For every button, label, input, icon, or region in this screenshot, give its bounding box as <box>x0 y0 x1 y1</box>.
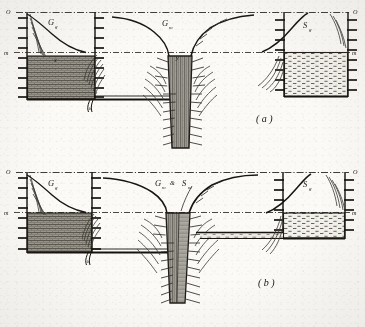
panel-a: O O m m G g G m S g x y b ( a ) <box>4 8 358 148</box>
panel-b-right-well <box>196 172 354 254</box>
panel-b-datum-right-label: O <box>353 168 358 175</box>
panel-a-datum-left-label: O <box>6 8 11 15</box>
panel-a-center-region-label: G m <box>162 18 173 30</box>
svg-text:G: G <box>48 17 54 27</box>
panel-b-center-inflow-left <box>137 219 162 273</box>
svg-text:m: m <box>188 185 192 190</box>
svg-text:G: G <box>48 178 54 188</box>
panel-a-watertable-right-label: m <box>352 49 357 56</box>
panel-a-center-inflow-left <box>143 66 166 116</box>
panel-b-right-region-label: S g <box>303 179 312 191</box>
svg-text:g: g <box>309 27 312 32</box>
svg-text:S: S <box>303 179 308 189</box>
panel-b-center-inflow-right <box>194 219 219 273</box>
svg-text:&: & <box>170 179 175 186</box>
panel-a-left-region-label: G g <box>48 17 58 29</box>
panel-a-point-x-label: x <box>53 56 57 63</box>
panel-a-left-well <box>18 12 178 112</box>
panel-a-point-y-label: y <box>175 54 179 61</box>
svg-text:m: m <box>169 25 173 30</box>
panel-b-watertable-left-label: m <box>4 209 9 216</box>
svg-text:G: G <box>162 18 168 28</box>
panel-b: O O m m G g G m & S m S g b ( b ) <box>4 168 358 303</box>
panel-a-watertable-left-label: m <box>4 49 9 56</box>
panel-a-caption: ( a ) <box>256 113 273 125</box>
panel-b-watertable-right-label: m <box>352 209 357 216</box>
panel-a-center-well <box>112 15 254 148</box>
svg-text:G: G <box>155 178 161 188</box>
panel-b-caption: ( b ) <box>258 277 275 289</box>
svg-text:S: S <box>182 178 187 188</box>
svg-text:S: S <box>303 20 308 30</box>
panel-b-center-region-label: G m & S m <box>155 178 192 190</box>
svg-text:g: g <box>55 24 58 29</box>
svg-text:m: m <box>162 185 166 190</box>
panel-b-left-well-flowlines <box>30 175 46 215</box>
svg-text:g: g <box>55 185 58 190</box>
figure-root: O O m m G g G m S g x y b ( a ) <box>0 0 365 327</box>
panel-a-right-well-inflow <box>258 56 284 92</box>
panel-a-right-well <box>258 12 357 97</box>
panel-a-left-well-flowlines <box>30 14 46 56</box>
panel-b-datum-left-label: O <box>6 168 11 175</box>
panel-a-center-inflow-right <box>194 66 217 116</box>
flow-net-figure: O O m m G g G m S g x y b ( a ) <box>0 0 365 327</box>
panel-b-left-region-label: G g <box>48 178 58 190</box>
panel-a-right-region-label: S g <box>303 20 312 32</box>
panel-a-datum-right-label: O <box>353 8 358 15</box>
svg-text:g: g <box>309 186 312 191</box>
